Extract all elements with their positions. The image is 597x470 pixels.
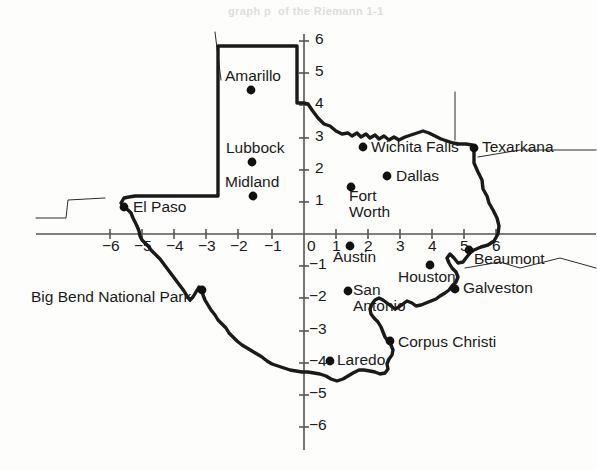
x-tick-label--6: −6 bbox=[102, 238, 120, 254]
city-label-big-bend: Big Bend National Park bbox=[31, 289, 191, 305]
y-tick-label-4: 4 bbox=[315, 95, 324, 111]
x-tick-label-4: 4 bbox=[428, 238, 437, 254]
dot-galveston bbox=[451, 285, 460, 294]
y-tick-label--3: −3 bbox=[309, 321, 327, 337]
dot-wichita-falls bbox=[359, 143, 368, 152]
city-label-beaumont: Beaumont bbox=[474, 251, 545, 267]
city-label-dallas: Dallas bbox=[396, 168, 439, 184]
dot-el-paso bbox=[120, 203, 129, 212]
x-tick-label-5: 5 bbox=[460, 238, 469, 254]
x-tick-label--4: −4 bbox=[166, 238, 184, 254]
city-label-corpus-christi: Corpus Christi bbox=[398, 334, 496, 350]
y-tick-label--6: −6 bbox=[309, 417, 327, 433]
city-label-texarkana: Texarkana bbox=[482, 139, 554, 155]
dot-san-antonio bbox=[344, 287, 353, 296]
city-label-fort-worth: Fort Worth bbox=[349, 188, 390, 220]
x-tick-label--5: −5 bbox=[134, 238, 152, 254]
x-tick-label-0: 0 bbox=[307, 238, 316, 254]
map-canvas bbox=[0, 0, 597, 470]
city-label-amarillo: Amarillo bbox=[225, 68, 281, 84]
city-label-el-paso: El Paso bbox=[133, 199, 186, 215]
y-tick-label--1: −1 bbox=[309, 256, 327, 272]
y-tick-label--4: −4 bbox=[309, 353, 327, 369]
dot-midland bbox=[249, 192, 258, 201]
x-tick-label--3: −3 bbox=[198, 238, 216, 254]
y-tick-label-3: 3 bbox=[315, 128, 324, 144]
dot-amarillo bbox=[247, 86, 256, 95]
dot-big-bend bbox=[198, 286, 207, 295]
y-tick-label-2: 2 bbox=[315, 160, 324, 176]
y-tick-label--5: −5 bbox=[309, 385, 327, 401]
city-dots bbox=[120, 86, 479, 366]
city-label-san-antonio: San Antonio bbox=[353, 282, 406, 314]
city-label-midland: Midland bbox=[225, 174, 279, 190]
dot-corpus-christi bbox=[386, 337, 395, 346]
y-tick-label-1: 1 bbox=[315, 192, 324, 208]
city-label-galveston: Galveston bbox=[463, 280, 533, 296]
dot-texarkana bbox=[470, 144, 479, 153]
y-tick-label-6: 6 bbox=[315, 31, 324, 47]
x-tick-label-3: 3 bbox=[396, 238, 405, 254]
city-label-wichita-falls: Wichita Falls bbox=[371, 139, 459, 155]
city-label-houston: Houston bbox=[398, 269, 456, 285]
city-label-laredo: Laredo bbox=[337, 352, 385, 368]
dot-lubbock bbox=[248, 158, 257, 167]
dot-dallas bbox=[383, 172, 392, 181]
x-tick-label--1: −1 bbox=[264, 238, 282, 254]
new-mexico-west-stub bbox=[36, 198, 105, 218]
city-label-austin: Austin bbox=[333, 249, 376, 265]
x-tick-label--2: −2 bbox=[230, 238, 248, 254]
y-tick-label--2: −2 bbox=[309, 288, 327, 304]
texas-map-figure: graph p of the Riemann 1-1 bbox=[0, 0, 597, 470]
city-label-lubbock: Lubbock bbox=[226, 140, 285, 156]
y-tick-label-5: 5 bbox=[315, 63, 324, 79]
